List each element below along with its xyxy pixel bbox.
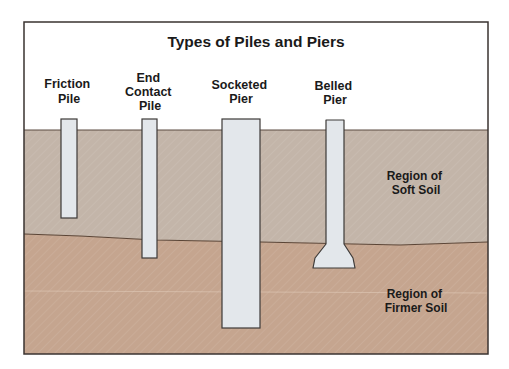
firm-soil-region-label: Region of Firmer Soil [385,287,448,315]
piles-and-piers-diagram: Types of Piles and Piers Friction Pile E… [0,0,509,369]
soft-soil-region-label: Region of Soft Soil [387,169,446,197]
socketed-pier-shape [222,119,260,328]
end-contact-pile-shape [142,119,157,258]
diagram-title: Types of Piles and Piers [167,33,344,50]
friction-pile-shape [61,119,77,218]
